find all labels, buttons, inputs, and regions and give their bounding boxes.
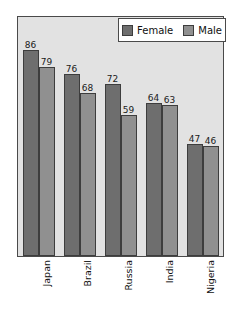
category-label-india: India: [165, 260, 175, 283]
bar-nigeria-female[interactable]: 47: [187, 144, 203, 256]
grouped-bar-chart: 86797668725964634746 FemaleMale JapanBra…: [0, 0, 241, 316]
category-label-japan: Japan: [42, 260, 52, 287]
bar-value-label: 63: [164, 95, 175, 105]
bar-brazil-male[interactable]: 68: [80, 93, 96, 256]
category-label-russia: Russia: [124, 260, 134, 291]
bar-japan-male[interactable]: 79: [39, 67, 55, 256]
bar-value-label: 68: [82, 83, 93, 93]
plot-area: 86797668725964634746 FemaleMale: [17, 16, 224, 257]
bar-group-nigeria: 4746: [187, 17, 219, 256]
bar-value-label: 86: [25, 40, 36, 50]
legend-label: Male: [198, 25, 222, 36]
legend-entry-female[interactable]: Female: [122, 25, 173, 36]
bar-japan-female[interactable]: 86: [23, 50, 39, 256]
category-label-nigeria: Nigeria: [206, 260, 216, 294]
bar-value-label: 76: [66, 64, 77, 74]
bar-india-male[interactable]: 63: [162, 105, 178, 256]
chart-legend: FemaleMale: [118, 18, 226, 42]
bar-value-label: 59: [123, 105, 134, 115]
category-label-brazil: Brazil: [83, 260, 93, 287]
legend-label: Female: [137, 25, 173, 36]
category-axis: JapanBrazilRussiaIndiaNigeria: [17, 258, 224, 316]
legend-entry-male[interactable]: Male: [183, 25, 222, 36]
bar-value-label: 79: [41, 57, 52, 67]
legend-swatch-male: [183, 25, 194, 36]
bar-nigeria-male[interactable]: 46: [203, 146, 219, 256]
bar-value-label: 47: [189, 134, 200, 144]
bar-brazil-female[interactable]: 76: [64, 74, 80, 256]
legend-swatch-female: [122, 25, 133, 36]
bars-layer: 86797668725964634746: [18, 17, 223, 256]
bar-group-russia: 7259: [105, 17, 137, 256]
bar-india-female[interactable]: 64: [146, 103, 162, 256]
bar-group-japan: 8679: [23, 17, 55, 256]
bar-value-label: 72: [107, 74, 118, 84]
bar-value-label: 46: [205, 136, 216, 146]
bar-russia-female[interactable]: 72: [105, 84, 121, 256]
bar-group-brazil: 7668: [64, 17, 96, 256]
bar-value-label: 64: [148, 93, 159, 103]
bar-group-india: 6463: [146, 17, 178, 256]
bar-russia-male[interactable]: 59: [121, 115, 137, 256]
